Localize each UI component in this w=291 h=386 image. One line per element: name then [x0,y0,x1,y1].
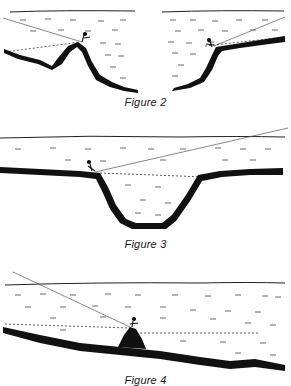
figure-3-caption: Figure 3 [0,238,291,250]
figure-2-caption: Figure 2 [0,96,291,108]
figure-4: Figure 4 [0,255,291,383]
figure-4-illustration [0,255,291,383]
figure-3: Figure 3 [0,125,291,253]
figure-2: Figure 2 [0,0,291,112]
figure-3-illustration [0,125,291,253]
rock-pile [118,327,146,349]
figure-4-caption: Figure 4 [0,374,291,386]
angler-figure-left [82,33,90,43]
angler-figure [130,318,138,328]
angler-figure [88,161,96,172]
